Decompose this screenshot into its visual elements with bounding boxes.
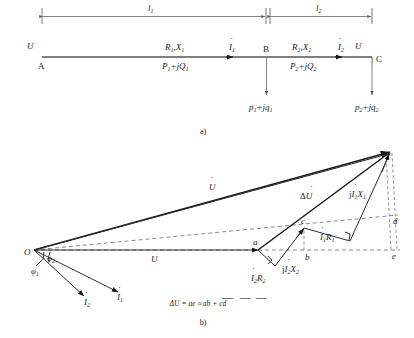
figure-container: l1 l2 A ˙U B p1+jq1 C ˙U <box>0 0 414 338</box>
origin-label: O <box>24 247 31 257</box>
segment-2-annotations: R2,X2 P2+jQ2 I2 ˙ <box>289 36 344 72</box>
node-a: A ˙U <box>27 41 45 71</box>
point-d-label: d <box>393 216 398 226</box>
load-1-label: p1+jq1 <box>248 102 273 113</box>
receiving-voltage-dot: ˙ <box>152 247 155 257</box>
segment-1-impedance: R1,X1 <box>164 42 184 53</box>
voltage-drop-equation: ΔU=ae≈ab+cd <box>169 299 267 309</box>
node-b: B p1+jq1 <box>248 44 273 113</box>
auxiliary-long-line <box>34 154 388 250</box>
apex-to-e-dashed-2 <box>386 153 391 250</box>
apex-to-e-dashed <box>392 153 397 250</box>
source-voltage-label: ˙U <box>27 41 34 51</box>
panel-b-caption: b) <box>200 318 207 327</box>
point-b-label: b <box>305 252 310 262</box>
dimension-l2: l2 <box>270 3 372 24</box>
segment1-drop-polyline <box>304 153 390 241</box>
end-voltage-label: ˙U <box>355 41 362 51</box>
panel-b-group: O φ1 φ2 I1 ˙ I2 ˙ U ˙ U ˙ ΔU ˙ I2R2 ˙ jI… <box>24 152 400 327</box>
dimension-l1: l1 <box>42 3 266 24</box>
angle-phi-1-label: φ1 <box>31 266 39 277</box>
drop-ji2x2-label: jI2X2 <box>281 264 299 275</box>
dimension-l1-label: l1 <box>148 3 154 14</box>
voltage-drop-dot: ˙ <box>310 184 313 194</box>
circuit-and-phasor-diagram: l1 l2 A ˙U B p1+jq1 C ˙U <box>0 0 414 338</box>
point-c-label: c <box>301 216 305 226</box>
point-a-label: a <box>253 237 258 247</box>
voltage-drop-equation-text: ΔU=ae≈ab+cd <box>169 299 227 308</box>
segment-2-power: P2+jQ2 <box>289 61 317 72</box>
segment-2-impedance: R2,X2 <box>291 42 311 53</box>
load-2-label: p2+jq2 <box>354 102 379 113</box>
point-e-label: e <box>392 251 396 261</box>
voltage-drop-vector <box>258 153 389 250</box>
current-phasor-2-dot: ˙ <box>85 290 88 300</box>
drop-ji1x1-label: jI1X1 <box>348 189 366 200</box>
node-a-label: A <box>38 61 45 71</box>
drop-i2r2-dot: ˙ <box>252 266 255 276</box>
node-c: C ˙U p2+jq2 <box>354 41 382 113</box>
right-angle-tick-2 <box>345 232 350 240</box>
angle-phi-2-label: φ2 <box>47 253 55 264</box>
node-b-label: B <box>263 44 269 54</box>
drop-ji1x1-dot: ˙ <box>354 182 357 192</box>
angle-phi-1-leader <box>36 258 44 266</box>
feeder-line <box>42 57 372 66</box>
sending-voltage-dot: ˙ <box>210 175 213 185</box>
panel-a-caption: a) <box>200 127 207 136</box>
segment-1-power: P1+jQ1 <box>161 61 189 72</box>
node-c-label: C <box>376 54 382 64</box>
ji2x2-arrow <box>296 229 304 239</box>
oc-dashed <box>34 215 398 250</box>
drop-i1r1-dot: ˙ <box>321 225 324 235</box>
dimension-l2-label: l2 <box>316 3 322 14</box>
segment-2-current-dot: ˙ <box>339 36 342 46</box>
current-phasor-2-vector <box>34 250 84 296</box>
panel-a-group: l1 l2 A ˙U B p1+jq1 C ˙U <box>27 3 382 136</box>
segment-1-current-dot: ˙ <box>230 36 233 46</box>
segment-1-annotations: R1,X1 P1+jQ1 I1 ˙ <box>161 36 235 72</box>
current-phasor-1-dot: ˙ <box>118 285 121 295</box>
drop-ji2x2-dot: ˙ <box>287 257 290 267</box>
